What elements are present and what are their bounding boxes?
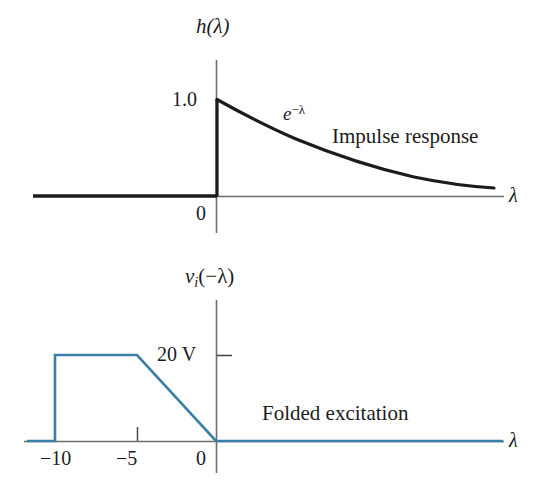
impulse-curve-label-exponent: −λ <box>291 102 305 117</box>
impulse-y-axis-label: h(λ) <box>196 16 230 37</box>
folded-x-axis-label: λ <box>509 430 518 450</box>
folded-x-tick-label-minus10: −10 <box>40 448 71 468</box>
impulse-origin-label: 0 <box>196 203 206 223</box>
panel-folded-excitation <box>24 300 504 473</box>
folded-excitation-annotation: Folded excitation <box>262 403 408 424</box>
figure-graphics <box>0 0 544 500</box>
figure-container: h(λ) 1.0 0 e−λ Impulse response λ vi(−λ)… <box>0 0 544 500</box>
impulse-y-tick-label: 1.0 <box>172 89 197 109</box>
folded-y-axis-label-rest: (−λ) <box>198 264 234 288</box>
folded-y-axis-label-base: v <box>185 264 194 288</box>
folded-excitation-waveform <box>27 355 503 441</box>
folded-y-axis-label: vi(−λ) <box>185 266 234 289</box>
folded-y-tick-label: 20 V <box>157 344 196 364</box>
impulse-x-axis-label: λ <box>509 185 518 205</box>
impulse-response-annotation: Impulse response <box>332 126 478 147</box>
impulse-curve-label: e−λ <box>283 104 305 123</box>
folded-x-tick-label-zero: 0 <box>196 448 206 468</box>
folded-x-tick-label-minus5: −5 <box>116 448 137 468</box>
